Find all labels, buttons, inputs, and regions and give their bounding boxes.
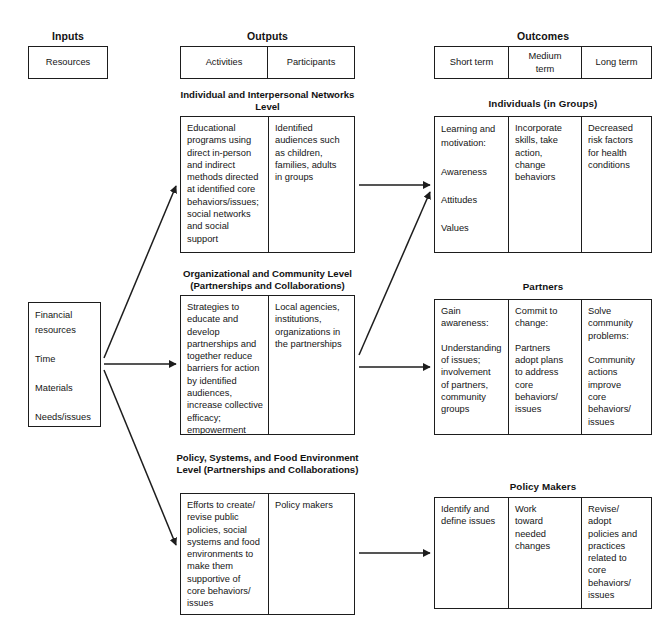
outputs-header-cell-activities: Activities xyxy=(181,47,267,78)
outcome-short-term-partners: Gain awareness: Understanding of issues;… xyxy=(435,300,508,434)
inputs-header-box: Resources xyxy=(28,46,108,79)
level-activities-individual: Educational programs using direct in-per… xyxy=(181,117,268,252)
logic-model-diagram: Inputs Outputs Outcomes Resources Activi… xyxy=(0,0,663,629)
outcome-box-individuals: Learning and motivation: Awareness Attit… xyxy=(434,116,652,253)
level-box-individual: Educational programs using direct in-per… xyxy=(180,116,355,253)
level-box-policy: Efforts to create/ revise public policie… xyxy=(180,493,355,615)
arrow-resources-to-individual xyxy=(104,186,176,358)
outcomes-header-cell-medium-term: Medium term xyxy=(508,47,581,78)
level-participants-policy: Policy makers xyxy=(268,494,354,614)
outcome-box-policy-makers: Identify and define issues Work toward n… xyxy=(434,497,652,609)
outcome-box-partners: Gain awareness: Understanding of issues;… xyxy=(434,299,652,435)
outcome-long-term-policy-makers: Revise/ adopt policies and practices rel… xyxy=(581,498,651,608)
inputs-header-cell-resources: Resources xyxy=(29,47,107,78)
outcome-title-policy-makers: Policy Makers xyxy=(434,481,652,492)
outcome-short-term-individuals: Learning and motivation: Awareness Attit… xyxy=(435,117,508,252)
outputs-header-cell-participants: Participants xyxy=(267,47,354,78)
level-title-policy: Policy, Systems, and Food Environment Le… xyxy=(172,452,363,476)
outcome-medium-term-policy-makers: Work toward needed changes xyxy=(508,498,581,608)
outputs-header-box: Activities Participants xyxy=(180,46,355,79)
level-activities-organizational: Strategies to educate and develop partne… xyxy=(181,296,268,434)
column-heading-outputs: Outputs xyxy=(180,30,355,42)
level-participants-organizational: Local agencies, institutions, organizati… xyxy=(268,296,354,434)
outcomes-header-cell-short-term: Short term xyxy=(435,47,508,78)
outcome-short-term-policy-makers: Identify and define issues xyxy=(435,498,508,608)
outcome-medium-term-partners: Commit to change: Partners adopt plans t… xyxy=(508,300,581,434)
outcome-long-term-partners: Solve community problems: Community acti… xyxy=(581,300,651,434)
outcomes-header-cell-long-term: Long term xyxy=(581,47,651,78)
level-title-organizational: Organizational and Community Level (Part… xyxy=(172,268,363,292)
level-box-organizational: Strategies to educate and develop partne… xyxy=(180,295,355,435)
column-heading-inputs: Inputs xyxy=(28,30,108,42)
outcomes-header-box: Short term Medium term Long term xyxy=(434,46,652,79)
level-activities-policy: Efforts to create/ revise public policie… xyxy=(181,494,268,614)
level-participants-individual: Identified audiences such as children, f… xyxy=(268,117,354,252)
inputs-resources-cell: Financial resources Time Materials Needs… xyxy=(29,303,100,426)
outcome-medium-term-individuals: Incorporate skills, take action, change … xyxy=(508,117,581,252)
arrow-resources-to-policy xyxy=(104,370,176,545)
outcome-long-term-individuals: Decreased risk factors for health condit… xyxy=(581,117,651,252)
outcome-title-individuals: Individuals (in Groups) xyxy=(434,98,652,109)
arrow-organizational-to-individuals xyxy=(359,192,430,355)
level-title-individual: Individual and Interpersonal Networks Le… xyxy=(180,89,355,113)
column-heading-outcomes: Outcomes xyxy=(434,30,652,42)
inputs-resources-box: Financial resources Time Materials Needs… xyxy=(28,302,101,427)
outcome-title-partners: Partners xyxy=(434,281,652,292)
